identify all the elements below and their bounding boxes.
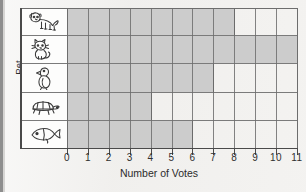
x-tick-label-9: 9	[252, 152, 258, 163]
fish-icon	[20, 121, 67, 149]
bar-end-fish	[192, 121, 193, 149]
y-axis-line	[20, 8, 22, 149]
bar-end-turtle	[151, 93, 152, 120]
chart-row-bird	[20, 64, 298, 92]
chart-row-fish	[20, 121, 298, 149]
x-axis-title: Number of Votes	[20, 167, 298, 179]
bar-turtle	[67, 93, 151, 120]
x-axis-tick-labels: 01234567891011	[20, 152, 298, 168]
bar-dog	[67, 8, 234, 35]
scan-edge-light	[3, 0, 5, 192]
bar-end-bird	[213, 64, 214, 91]
dog-icon	[20, 8, 67, 35]
cat-icon	[20, 36, 67, 63]
bar-fish	[67, 121, 192, 149]
x-tick-label-8: 8	[231, 152, 237, 163]
zero-axis-line	[67, 8, 68, 149]
turtle-icon	[20, 93, 67, 120]
chart-row-dog	[20, 8, 298, 36]
x-tick-label-10: 10	[270, 152, 282, 163]
bird-icon	[20, 64, 67, 91]
x-tick-label-0: 0	[64, 152, 70, 163]
x-tick-label-4: 4	[148, 152, 154, 163]
x-tick-label-3: 3	[127, 152, 133, 163]
bar-bird	[67, 64, 213, 91]
x-tick-label-2: 2	[106, 152, 112, 163]
bar-cat	[67, 36, 297, 63]
x-tick-label-1: 1	[85, 152, 91, 163]
x-tick-label-11: 11	[291, 152, 302, 163]
chart-frame-right	[297, 8, 298, 149]
bar-chart	[20, 8, 298, 149]
chart-rows	[20, 8, 298, 149]
bar-end-dog	[234, 8, 235, 35]
chart-row-cat	[20, 36, 298, 64]
x-tick-label-6: 6	[189, 152, 195, 163]
x-tick-label-5: 5	[169, 152, 175, 163]
chart-row-turtle	[20, 93, 298, 121]
chart-frame-top	[20, 8, 298, 9]
x-tick-label-7: 7	[210, 152, 216, 163]
